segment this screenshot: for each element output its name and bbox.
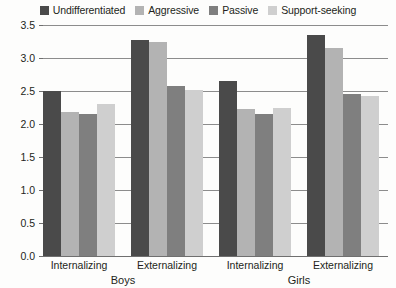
x-axis-category-label: Internalizing <box>29 259 129 271</box>
y-axis-tick-label: 1.0 <box>1 185 35 196</box>
bar <box>273 108 291 257</box>
legend-item-1[interactable]: Aggressive <box>135 5 199 16</box>
y-axis-tick-label: 3.5 <box>1 20 35 31</box>
bar-chart: UndifferentiatedAggressivePassiveSupport… <box>0 0 396 288</box>
x-axis-group-label: Girls <box>249 274 349 286</box>
bar <box>61 112 79 256</box>
gridline-0.0 <box>43 256 388 257</box>
x-axis-category-label: Externalizing <box>117 259 217 271</box>
bar <box>79 114 97 256</box>
y-tick-mark-0.0 <box>39 256 43 257</box>
chart-legend: UndifferentiatedAggressivePassiveSupport… <box>0 0 396 20</box>
legend-item-label: Undifferentiated <box>53 5 125 16</box>
bar <box>167 86 185 256</box>
bar <box>219 81 237 256</box>
y-axis-tick-label: 1.5 <box>1 152 35 163</box>
bar <box>255 114 273 256</box>
legend-item-label: Support-seeking <box>281 5 356 16</box>
y-axis-tick-label: 2.5 <box>1 86 35 97</box>
y-axis-tick-label: 3.0 <box>1 53 35 64</box>
legend-item-2[interactable]: Passive <box>209 5 258 16</box>
bar <box>97 104 115 256</box>
x-axis-group-label: Boys <box>73 274 173 286</box>
legend-swatch-aggressive-icon <box>135 6 144 15</box>
legend-item-3[interactable]: Support-seeking <box>268 5 356 16</box>
y-tick-mark-3.0 <box>39 58 43 59</box>
x-axis-category-label: Internalizing <box>205 259 305 271</box>
plot-area: 0.00.51.01.52.02.53.03.5 <box>43 25 388 256</box>
legend-swatch-undifferentiated-icon <box>40 6 49 15</box>
legend-swatch-passive-icon <box>209 6 218 15</box>
y-tick-mark-3.5 <box>39 25 43 26</box>
gridline-3.5 <box>43 25 388 26</box>
bar <box>325 48 343 256</box>
x-axis-category-label: Externalizing <box>293 259 393 271</box>
bar <box>237 109 255 256</box>
bar <box>307 35 325 256</box>
bar <box>343 94 361 256</box>
y-axis-tick-label: 0.5 <box>1 218 35 229</box>
bar <box>361 96 379 256</box>
bar <box>149 42 167 257</box>
legend-item-label: Passive <box>222 5 258 16</box>
legend-swatch-support-seeking-icon <box>268 6 277 15</box>
bar <box>43 91 61 256</box>
bar <box>185 90 203 256</box>
y-axis-tick-label: 2.0 <box>1 119 35 130</box>
legend-item-0[interactable]: Undifferentiated <box>40 5 125 16</box>
legend-item-label: Aggressive <box>148 5 199 16</box>
bar <box>131 40 149 256</box>
